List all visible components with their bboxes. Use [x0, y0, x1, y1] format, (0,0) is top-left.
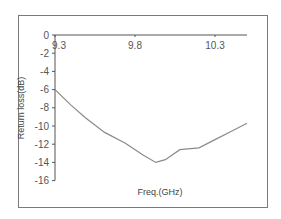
x-axis-label: Freq.(GHz)	[138, 187, 183, 197]
y-tick-label: -12	[35, 139, 50, 150]
x-tick-label: 9.8	[128, 40, 142, 51]
y-tick-label: -10	[35, 121, 50, 132]
x-tick-label: 10.3	[205, 40, 225, 51]
y-tick-label: -14	[35, 157, 50, 168]
return-loss-chart: 0-2-4-6-8-10-12-14-169.39.810.3 Return l…	[0, 0, 281, 219]
y-axis-label: Return loss(dB)	[16, 77, 26, 140]
y-tick-label: -8	[40, 102, 49, 113]
y-tick-label: 0	[43, 30, 49, 41]
y-tick-label: -6	[40, 84, 49, 95]
return-loss-line	[55, 90, 247, 163]
y-tick-label: -2	[40, 48, 49, 59]
y-tick-label: -4	[40, 66, 49, 77]
axes: 0-2-4-6-8-10-12-14-169.39.810.3	[35, 30, 247, 187]
y-tick-label: -16	[35, 175, 50, 186]
x-tick-label: 9.3	[52, 40, 66, 51]
